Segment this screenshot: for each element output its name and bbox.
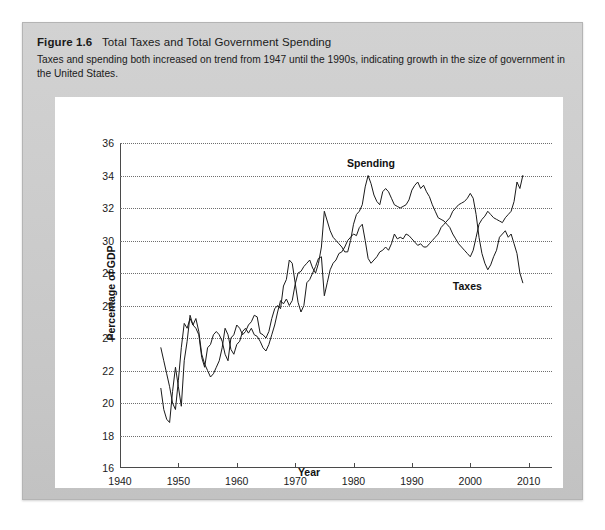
series-line-taxes <box>161 193 523 409</box>
y-tick-label: 36 <box>102 137 114 149</box>
y-axis-title: Percentage of GDP <box>105 245 117 340</box>
series-label-taxes: Taxes <box>453 280 482 292</box>
y-tick-label: 18 <box>102 430 114 442</box>
y-tick-label: 24 <box>102 332 114 344</box>
figure-title: Total Taxes and Total Government Spendin… <box>102 36 331 48</box>
y-tick-label: 32 <box>102 202 114 214</box>
x-tick-label: 1980 <box>342 475 365 487</box>
figure-title-line: Figure 1.6 Total Taxes and Total Governm… <box>37 35 567 50</box>
x-tick-label: 2000 <box>459 475 482 487</box>
y-tick-label: 22 <box>102 365 114 377</box>
y-tick-label: 34 <box>102 170 114 182</box>
y-tick-label: 30 <box>102 235 114 247</box>
series-line-spending <box>161 176 523 423</box>
chart-card: Percentage of GDP Year 16182022242628303… <box>55 97 563 488</box>
y-tick-label: 16 <box>102 462 114 474</box>
plot-area: 1618202224262830323436 19401950196019701… <box>120 143 552 468</box>
x-tick-label: 2010 <box>517 475 540 487</box>
figure-subtitle: Taxes and spending both increased on tre… <box>37 53 565 80</box>
x-tick-label: 1970 <box>283 475 306 487</box>
y-tick-label: 26 <box>102 300 114 312</box>
x-tick-label: 1990 <box>400 475 423 487</box>
x-tick-label: 1950 <box>167 475 190 487</box>
x-tick-label: 1940 <box>108 475 131 487</box>
series-label-spending: Spending <box>347 157 395 169</box>
y-tick-label: 20 <box>102 397 114 409</box>
y-tick-label: 28 <box>102 267 114 279</box>
series-lines <box>120 143 552 468</box>
x-tick-label: 1960 <box>225 475 248 487</box>
figure-panel: Figure 1.6 Total Taxes and Total Governm… <box>22 22 583 500</box>
figure-number-label: Figure 1.6 <box>37 36 92 48</box>
figure-caption: Figure 1.6 Total Taxes and Total Governm… <box>37 35 567 80</box>
plot-wrapper: Percentage of GDP Year 16182022242628303… <box>55 97 563 488</box>
